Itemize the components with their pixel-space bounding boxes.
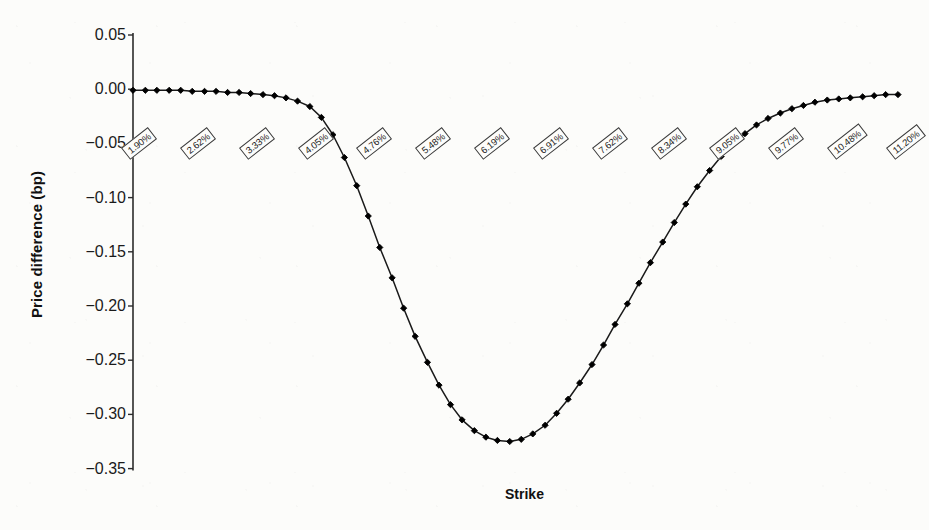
data-point-marker-65 <box>895 92 901 98</box>
data-point-marker-14 <box>294 98 300 104</box>
data-point-marker-6 <box>201 88 207 94</box>
data-point-marker-30 <box>483 434 489 440</box>
data-point-marker-9 <box>236 89 242 95</box>
data-point-marker-26 <box>436 382 442 388</box>
data-point-marker-33 <box>518 436 524 442</box>
data-point-marker-3 <box>166 87 172 93</box>
data-point-marker-19 <box>354 183 360 189</box>
data-point-marker-5 <box>189 88 195 94</box>
data-point-marker-11 <box>260 92 266 98</box>
data-point-marker-64 <box>883 92 889 98</box>
data-point-marker-43 <box>636 280 642 286</box>
data-point-marker-8 <box>224 89 230 95</box>
data-point-marker-13 <box>283 95 289 101</box>
data-point-marker-12 <box>271 93 277 99</box>
data-point-marker-24 <box>412 333 418 339</box>
data-point-marker-62 <box>860 94 866 100</box>
data-point-marker-56 <box>789 106 795 112</box>
axis-lines <box>128 33 133 471</box>
data-point-marker-4 <box>178 87 184 93</box>
data-point-marker-63 <box>871 93 877 99</box>
data-point-marker-61 <box>847 95 853 101</box>
data-point-marker-59 <box>824 97 830 103</box>
data-point-marker-1 <box>142 87 148 93</box>
data-point-marker-40 <box>600 342 606 348</box>
data-point-marker-21 <box>377 244 383 250</box>
data-point-marker-55 <box>777 110 783 116</box>
data-point-marker-25 <box>424 359 430 365</box>
plot-area <box>0 0 929 530</box>
data-point-marker-58 <box>812 99 818 105</box>
data-point-marker-57 <box>800 102 806 108</box>
chart-figure: Price difference (bp) 0.050.00−0.05−0.10… <box>0 0 929 530</box>
data-point-marker-10 <box>248 90 254 96</box>
data-point-marker-18 <box>341 154 347 160</box>
data-point-marker-54 <box>765 115 771 121</box>
data-point-marker-20 <box>365 213 371 219</box>
data-point-marker-60 <box>836 96 842 102</box>
data-point-marker-7 <box>213 88 219 94</box>
data-point-marker-2 <box>154 87 160 93</box>
data-point-marker-32 <box>507 438 513 444</box>
data-point-marker-0 <box>130 87 136 93</box>
data-point-marker-22 <box>389 275 395 281</box>
data-point-marker-23 <box>401 305 407 311</box>
data-point-marker-31 <box>494 437 500 443</box>
